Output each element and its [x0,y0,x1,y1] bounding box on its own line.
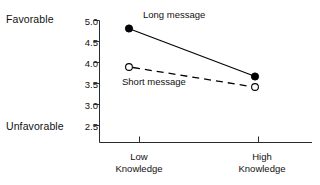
data-point-long-low [125,25,132,32]
data-point-short-high [252,84,259,91]
x-axis [100,137,313,143]
plot-area [0,0,320,185]
chart-container: Favorable Unfavorable 5.0 4.5 4.0 3.5 3.… [0,0,320,185]
data-point-long-high [251,73,258,80]
series-short-message [126,64,259,91]
data-point-short-low [126,64,133,71]
series-line-long-message [130,29,254,76]
series-long-message [125,25,258,80]
y-axis [94,21,100,143]
series-line-short-message [133,68,251,87]
